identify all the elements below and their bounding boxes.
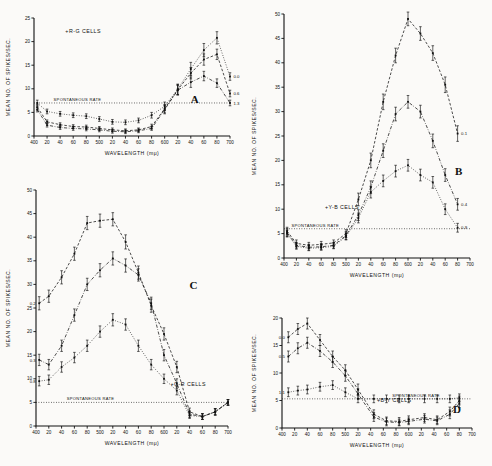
data-point	[333, 245, 335, 247]
data-point	[176, 366, 178, 368]
x-tick-label: 500	[95, 140, 103, 145]
data-point	[216, 82, 218, 84]
x-tick-label: 20	[45, 140, 51, 145]
data-point	[370, 191, 372, 193]
data-point	[357, 393, 359, 395]
axis-lines	[36, 190, 228, 426]
data-point	[216, 37, 218, 39]
data-point	[177, 89, 179, 91]
x-tick-label: 500	[341, 432, 349, 437]
data-point	[432, 52, 434, 54]
y-axis-title: MEAN NO. OF SPIKES/SEC.	[5, 38, 11, 116]
y-axis-title: MEAN NO. OF SPIKES/SEC.	[5, 269, 11, 347]
data-point	[444, 208, 446, 210]
x-tick-label: 400	[280, 262, 288, 267]
x-tick-label: 80	[455, 262, 461, 267]
x-tick-label: 600	[160, 430, 168, 435]
data-point	[72, 128, 74, 130]
data-point	[395, 113, 397, 115]
chart-c: 0510152025303540455040020406080500204060…	[0, 176, 246, 466]
y-tick-label: 5	[29, 400, 32, 405]
data-point	[125, 265, 127, 267]
series-line-0-3	[39, 258, 228, 416]
data-point	[99, 331, 101, 333]
x-tick-label: 60	[71, 140, 77, 145]
data-point	[344, 375, 346, 377]
data-point	[61, 276, 63, 278]
y-tick-label: 10	[273, 371, 279, 376]
x-tick-label: 60	[381, 432, 387, 437]
data-point	[214, 411, 216, 413]
data-point	[407, 164, 409, 166]
y-tick-label: 25	[25, 16, 31, 21]
x-tick-label: 60	[319, 262, 325, 267]
y-tick-label: 15	[273, 343, 279, 348]
x-tick-label: 600	[405, 432, 413, 437]
data-point	[395, 55, 397, 57]
x-tick-label: 40	[123, 430, 129, 435]
x-tick-label: 80	[85, 430, 91, 435]
data-point	[112, 218, 114, 220]
data-point	[163, 378, 165, 380]
chart-a: 0510152025400204060805002040608060020406…	[0, 4, 246, 176]
data-point	[373, 416, 375, 418]
data-point	[163, 354, 165, 356]
panel-title: +G-R CELLS	[170, 381, 206, 387]
data-point	[125, 121, 127, 123]
x-axis-title: WAVELENGTH (mμ)	[350, 272, 405, 278]
y-tick-label: 25	[275, 134, 281, 139]
y-tick-label: 10	[275, 207, 281, 212]
chart-d: 0510152040020406080500204060806002040608…	[246, 300, 492, 466]
data-point	[287, 356, 289, 358]
data-point	[189, 415, 191, 417]
data-point	[449, 398, 451, 400]
data-point	[72, 114, 74, 116]
series-line-0-2	[39, 219, 228, 416]
x-tick-label: 400	[32, 430, 40, 435]
x-tick-label: 20	[110, 430, 116, 435]
panel-b-y-b-cells: 0510152025303540455040020406080500204060…	[246, 0, 492, 300]
y-tick-label: 20	[25, 39, 31, 44]
data-point	[358, 199, 360, 201]
x-tick-label: 20	[355, 432, 361, 437]
data-point	[229, 102, 231, 104]
panel-letter: C	[190, 279, 198, 291]
series-label: 0.5	[279, 354, 286, 359]
data-point	[112, 319, 114, 321]
data-point	[345, 236, 347, 238]
x-tick-label: 40	[306, 262, 312, 267]
y-tick-label: 15	[275, 182, 281, 187]
y-tick-label: 50	[27, 188, 33, 193]
data-point	[163, 333, 165, 335]
data-point	[332, 361, 334, 363]
series-label: 1.1	[279, 390, 286, 395]
data-point	[99, 220, 101, 222]
x-tick-label: 600	[404, 262, 412, 267]
data-point	[297, 390, 299, 392]
x-tick-label: 400	[278, 432, 286, 437]
x-tick-label: 80	[149, 430, 155, 435]
x-tick-label: 60	[443, 262, 449, 267]
data-point	[382, 101, 384, 103]
series-line-1-3	[37, 76, 230, 132]
data-point	[229, 93, 231, 95]
data-point	[229, 76, 231, 78]
data-point	[319, 350, 321, 352]
y-tick-label: 0	[277, 256, 280, 261]
data-point	[398, 422, 400, 424]
panel-letter: D	[453, 403, 461, 415]
data-point	[306, 342, 308, 344]
data-point	[382, 150, 384, 152]
data-point	[150, 302, 152, 304]
data-point	[287, 336, 289, 338]
x-tick-label: 40	[430, 262, 436, 267]
y-tick-label: 25	[27, 306, 33, 311]
y-tick-label: 5	[277, 231, 280, 236]
series-label: 0.4	[461, 202, 468, 207]
data-point	[458, 397, 460, 399]
data-point	[138, 130, 140, 132]
data-point	[61, 366, 63, 368]
x-tick-label: 20	[175, 140, 181, 145]
data-point	[190, 81, 192, 83]
data-point	[176, 390, 178, 392]
